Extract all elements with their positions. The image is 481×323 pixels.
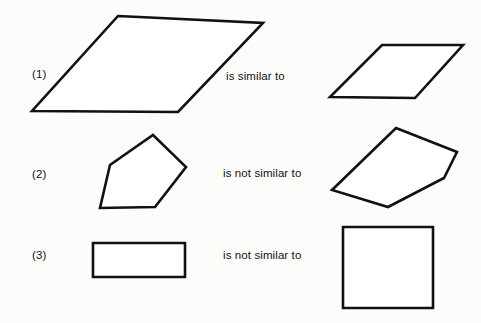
square xyxy=(343,227,433,308)
row-label-1: (1) xyxy=(32,68,46,81)
rectangle xyxy=(93,243,185,277)
shapes-canvas xyxy=(0,0,481,323)
pentagon-tilted xyxy=(332,128,457,207)
relation-text-1: is similar to xyxy=(226,70,285,83)
large-parallelogram xyxy=(32,16,263,112)
similar-figures-diagram: (1) is similar to (2) is not similar to … xyxy=(0,0,481,323)
relation-text-2: is not similar to xyxy=(223,167,301,180)
small-parallelogram xyxy=(330,45,463,98)
relation-text-3: is not similar to xyxy=(223,249,301,262)
row-label-2: (2) xyxy=(32,168,46,181)
row-label-3: (3) xyxy=(32,249,46,262)
pentagon-upright xyxy=(100,135,186,208)
